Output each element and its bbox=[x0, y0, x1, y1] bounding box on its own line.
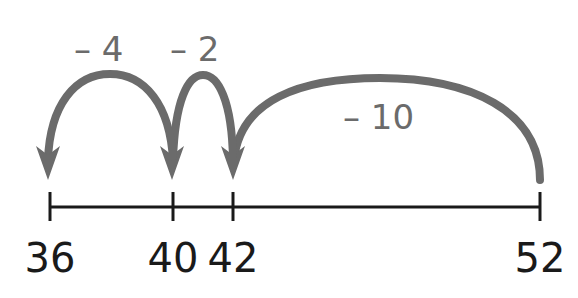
jump-label-minus-10: – 10 bbox=[343, 100, 414, 134]
tick-label-36: 36 bbox=[25, 238, 76, 278]
jump-label-minus-2: – 2 bbox=[170, 32, 219, 66]
jump-arc-minus-2 bbox=[173, 75, 233, 160]
tick-label-52: 52 bbox=[515, 238, 566, 278]
jump-arc-minus-4 bbox=[48, 74, 173, 160]
tick-label-40: 40 bbox=[148, 238, 199, 278]
tick-label-42: 42 bbox=[208, 238, 259, 278]
jump-label-minus-4: – 4 bbox=[74, 32, 123, 66]
